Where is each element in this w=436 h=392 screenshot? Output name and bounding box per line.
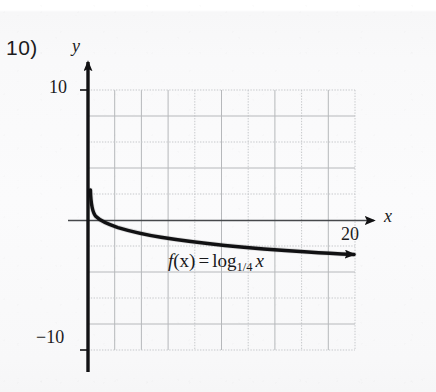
function-equation-label: f(x)=log1/4x — [168, 250, 264, 275]
function-argument-paren: (x) — [173, 250, 195, 271]
log-base: 1/4 — [236, 260, 252, 274]
logarithmic-function-graph — [0, 0, 436, 392]
log-operator: log — [212, 250, 236, 271]
y-tick-label-top: 10 — [49, 77, 67, 98]
log-argument: x — [252, 250, 263, 271]
y-axis-label: y — [72, 36, 80, 57]
scanned-worksheet-page: 10) y x 10 −10 20 f(x)=log1/4x — [0, 0, 436, 392]
x-tick-label-20: 20 — [341, 224, 359, 245]
equals-sign: = — [195, 250, 212, 271]
question-number: 10) — [6, 36, 38, 60]
y-tick-label-bottom: −10 — [36, 327, 64, 348]
x-axis-label: x — [384, 206, 392, 227]
function-curve-ghost — [90, 190, 354, 255]
